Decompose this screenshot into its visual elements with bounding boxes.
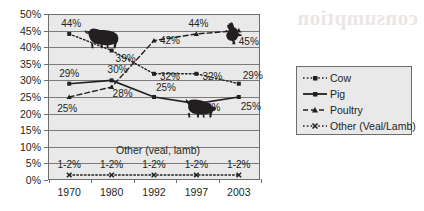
legend-label: Cow (330, 72, 351, 84)
x-tick-label: 1992 (142, 186, 165, 198)
legend-label: Other (Veal/Lamb) (330, 120, 416, 132)
cow-icon (83, 26, 121, 50)
x-tick-label: 2003 (227, 186, 250, 198)
x-tick-label: 1997 (185, 186, 208, 198)
legend-item-cow[interactable]: Cow (301, 70, 411, 86)
legend-item-pig[interactable]: Pig (301, 86, 411, 102)
legend-key-triangle-icon (301, 104, 329, 116)
legend-key-square-icon (301, 72, 329, 84)
x-tick-label: 1970 (58, 186, 81, 198)
rooster-icon (224, 21, 243, 45)
chart-figure: consumption 0%5%10%15%20%25%30%35%40%45%… (0, 0, 424, 211)
legend-item-other-veal-lamb[interactable]: Other (Veal/Lamb) (301, 118, 411, 134)
legend-item-poultry[interactable]: Poultry (301, 102, 411, 118)
legend-label: Poultry (330, 104, 363, 116)
pig-icon (181, 98, 217, 119)
legend-label: Pig (330, 88, 345, 100)
x-tick-label: 1980 (100, 186, 123, 198)
legend-key-square-icon (301, 88, 329, 100)
chart-legend: CowPigPoultryOther (Veal/Lamb) (296, 66, 412, 135)
legend-key-x-icon (301, 120, 329, 132)
